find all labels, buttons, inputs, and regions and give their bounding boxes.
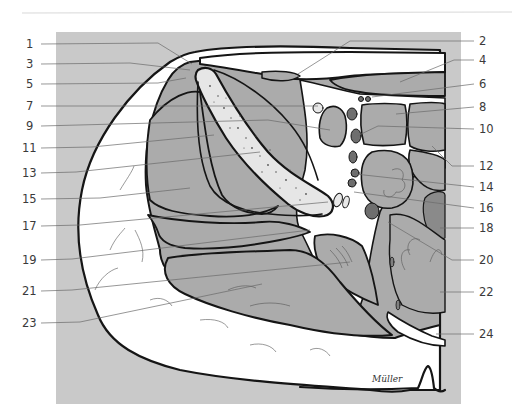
cross-section-drawing <box>78 47 445 392</box>
label-7: 7 <box>26 99 33 113</box>
label-8: 8 <box>479 100 486 114</box>
label-24: 24 <box>479 327 494 341</box>
label-22: 22 <box>479 285 494 299</box>
label-10: 10 <box>479 122 494 136</box>
label-2: 2 <box>479 34 486 48</box>
label-9: 9 <box>26 119 33 133</box>
label-3: 3 <box>26 57 33 71</box>
artist-signature: Müller <box>371 374 403 384</box>
label-16: 16 <box>479 201 494 215</box>
label-4: 4 <box>479 53 486 67</box>
label-5: 5 <box>26 77 33 91</box>
label-17: 17 <box>22 219 37 233</box>
anatomy-figure: 1 3 5 7 9 11 13 15 17 19 21 23 2 4 6 8 1… <box>0 0 522 419</box>
label-19: 19 <box>22 253 37 267</box>
label-1: 1 <box>26 37 33 51</box>
label-15: 15 <box>22 192 37 206</box>
label-18: 18 <box>479 221 494 235</box>
label-6: 6 <box>479 77 486 91</box>
label-21: 21 <box>22 284 37 298</box>
muscle-10 <box>319 106 346 146</box>
label-12: 12 <box>479 159 494 173</box>
muscle-8 <box>361 104 407 146</box>
label-14: 14 <box>479 180 494 194</box>
label-20: 20 <box>479 253 494 267</box>
top-rule <box>22 12 512 13</box>
label-13: 13 <box>22 166 37 180</box>
muscle-2 <box>262 71 300 81</box>
label-11: 11 <box>22 141 37 155</box>
label-23: 23 <box>22 316 37 330</box>
